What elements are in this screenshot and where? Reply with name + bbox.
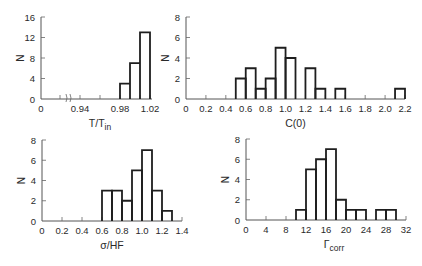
y-tick-label: 2 xyxy=(31,195,36,206)
y-axis-title: N xyxy=(15,177,26,184)
y-tick-label: 8 xyxy=(235,134,240,145)
histogram-bar xyxy=(356,210,366,220)
histogram-bar xyxy=(326,149,336,220)
x-tick-label: 0.94 xyxy=(71,103,90,114)
histogram-bar xyxy=(316,159,326,220)
y-tick-label: 8 xyxy=(31,135,36,146)
y-tick-label: 4 xyxy=(235,174,240,185)
x-tick-label: 0.4 xyxy=(219,103,232,114)
x-axis-title: T/Tin xyxy=(89,117,112,132)
x-tick-label: 0 xyxy=(39,225,44,236)
y-tick-label: 4 xyxy=(175,53,180,64)
axis-lines xyxy=(41,17,152,99)
histogram-bar xyxy=(346,210,356,220)
y-axis-title: N xyxy=(159,54,170,61)
x-tick-label: 32 xyxy=(401,224,412,235)
histogram-bar xyxy=(112,191,122,221)
x-tick-label: 12 xyxy=(301,224,312,235)
histogram-figure: 0481216N00.940.981.02T/Tin 02468N00.20.4… xyxy=(0,0,422,266)
x-tick-label: 0.2 xyxy=(55,225,68,236)
y-tick-label: 2 xyxy=(175,73,180,84)
x-tick-label: 1.02 xyxy=(141,103,160,114)
x-tick-label: 4 xyxy=(263,224,268,235)
x-axis-title: σ/HF xyxy=(100,239,123,251)
histogram-bar xyxy=(162,211,172,221)
y-tick-label: 2 xyxy=(235,194,240,205)
x-tick-label: 0.8 xyxy=(259,103,272,114)
x-tick-label: 1.2 xyxy=(299,103,312,114)
histogram-bar xyxy=(256,89,266,99)
x-tick-label: 0.6 xyxy=(95,225,108,236)
histogram-bar xyxy=(305,68,315,99)
y-tick-label: 16 xyxy=(24,12,35,23)
x-tick-label: 1.0 xyxy=(279,103,292,114)
y-tick-label: 4 xyxy=(30,73,35,84)
histogram-bar xyxy=(336,200,346,220)
x-tick-label: 1.4 xyxy=(175,225,188,236)
y-tick-label: 6 xyxy=(31,155,36,166)
y-tick-label: 6 xyxy=(235,154,240,165)
histogram-bar xyxy=(395,89,405,99)
panel-sigma-hf-histogram: 02468N00.20.40.60.81.01.21.4σ/HF xyxy=(15,135,189,252)
histogram-bar xyxy=(335,89,345,99)
x-tick-label: 0 xyxy=(243,224,248,235)
y-tick-label: 0 xyxy=(235,215,240,226)
x-axis-title: C(0) xyxy=(285,117,305,129)
x-tick-label: 28 xyxy=(381,224,392,235)
histogram-bar xyxy=(386,210,396,220)
x-tick-label: 1.2 xyxy=(155,225,168,236)
histogram-bar xyxy=(132,170,142,221)
x-tick-label: 1.0 xyxy=(135,225,148,236)
x-tick-label: 20 xyxy=(341,224,352,235)
histogram-bar xyxy=(152,191,162,221)
y-tick-label: 0 xyxy=(175,94,180,105)
x-tick-label: 8 xyxy=(283,224,288,235)
y-tick-label: 0 xyxy=(30,94,35,105)
y-tick-label: 0 xyxy=(31,216,36,227)
panel-c0-histogram: 02468N00.20.40.60.81.01.21.41.61.82.02.2… xyxy=(159,12,412,130)
y-tick-label: 12 xyxy=(24,32,35,43)
x-tick-label: 1.8 xyxy=(359,103,372,114)
x-tick-label: 24 xyxy=(361,224,372,235)
x-tick-label: 2.0 xyxy=(378,103,391,114)
x-tick-label: 0.6 xyxy=(239,103,252,114)
histogram-bars xyxy=(120,32,150,99)
y-tick-label: 6 xyxy=(175,32,180,43)
figure-canvas: 0481216N00.940.981.02T/Tin 02468N00.20.4… xyxy=(0,0,422,266)
panel-t-ratio-histogram: 0481216N00.940.981.02T/Tin xyxy=(14,12,159,133)
x-tick-label: 16 xyxy=(321,224,332,235)
histogram-bar xyxy=(276,48,286,99)
x-tick-label: 0.8 xyxy=(115,225,128,236)
histogram-bar xyxy=(266,79,276,100)
histogram-bar xyxy=(122,201,132,221)
histogram-bar xyxy=(315,89,325,99)
y-tick-label: 8 xyxy=(30,53,35,64)
axis-break-mark xyxy=(66,94,71,102)
x-tick-label: 0.98 xyxy=(111,103,130,114)
x-tick-label: 0.4 xyxy=(75,225,88,236)
y-tick-label: 8 xyxy=(175,12,180,23)
x-tick-label: 0 xyxy=(38,103,43,114)
y-axis-title: N xyxy=(14,54,25,61)
x-tick-label: 1.6 xyxy=(339,103,352,114)
histogram-bar xyxy=(142,150,152,221)
histogram-bar xyxy=(296,210,306,220)
histogram-bar xyxy=(246,68,256,99)
histogram-bar xyxy=(102,191,112,221)
x-tick-label: 0.2 xyxy=(199,103,212,114)
x-tick-label: 0 xyxy=(183,103,188,114)
x-tick-label: 1.4 xyxy=(319,103,332,114)
histogram-bar xyxy=(286,58,296,99)
y-axis-title: N xyxy=(219,176,230,183)
histogram-bar xyxy=(306,169,316,220)
x-tick-label: 2.2 xyxy=(398,103,411,114)
panel-gamma-corr-histogram: 02468N048121620242832Γcorr xyxy=(219,134,411,254)
x-axis-title: Γcorr xyxy=(324,238,345,253)
y-tick-label: 4 xyxy=(31,175,36,186)
histogram-bar xyxy=(236,79,246,100)
histogram-bar xyxy=(376,210,386,220)
